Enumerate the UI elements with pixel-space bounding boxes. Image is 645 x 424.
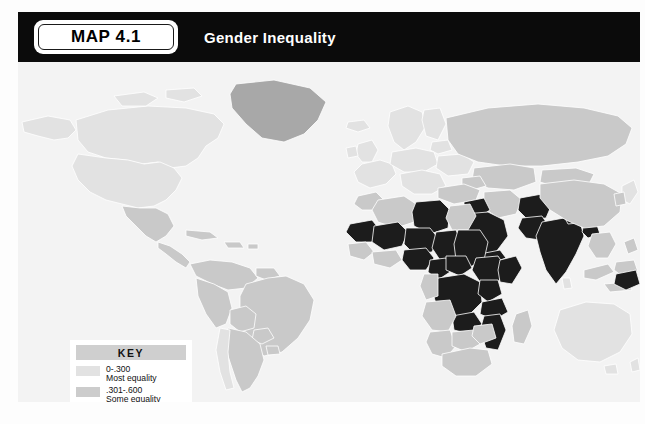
map-number-badge: MAP 4.1 <box>34 20 178 54</box>
region-korea <box>614 192 626 206</box>
legend-desc-most-equality: Most equality <box>106 374 157 383</box>
map-header-bar: MAP 4.1 Gender Inequality <box>18 12 640 62</box>
legend-title-band: KEY <box>76 345 186 360</box>
legend-item-most-equality: 0-.300 Most equality <box>76 365 186 383</box>
region-ireland <box>346 146 358 158</box>
region-puerto-rico <box>248 244 258 249</box>
region-uruguay <box>266 346 280 355</box>
region-hispaniola <box>224 242 244 248</box>
legend-text-most-equality: 0-.300 Most equality <box>106 365 157 383</box>
legend-desc-some-equality: Some equality <box>106 395 160 402</box>
legend-swatch-most-equality <box>76 366 100 376</box>
region-germany-poland <box>390 148 438 172</box>
region-sri-lanka <box>562 278 572 289</box>
map-page: MAP 4.1 Gender Inequality .c-eq { fill:#… <box>0 0 645 424</box>
legend-swatch-some-equality <box>76 387 100 397</box>
world-map-container: .c-eq { fill:#e2e2e2; stroke:#ffffff; st… <box>18 62 640 402</box>
legend-text-some-equality: .301-.600 Some equality <box>106 386 160 402</box>
map-legend: KEY 0-.300 Most equality .301-.600 Some … <box>70 340 192 402</box>
map-number-label: MAP 4.1 <box>71 27 141 47</box>
page-title: Gender Inequality <box>204 12 336 62</box>
region-tasmania <box>604 364 618 374</box>
legend-title: KEY <box>118 347 144 359</box>
legend-item-some-equality: .301-.600 Some equality <box>76 386 186 402</box>
region-russia <box>446 104 632 166</box>
